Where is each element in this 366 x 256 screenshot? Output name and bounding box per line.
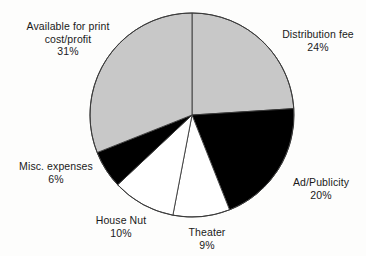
slice-label-distribution-line1: Distribution fee [272, 28, 364, 41]
slice-value-distribution: 24% [272, 41, 364, 54]
slice-label-adpublicity: Ad/Publicity 20% [278, 176, 364, 201]
slice-value-adpublicity: 20% [278, 189, 364, 202]
slice-value-misc: 6% [4, 173, 108, 186]
pie-chart: Available for print cost/profit 31% Dist… [0, 0, 366, 256]
slice-value-theater: 9% [176, 239, 238, 252]
slice-label-distribution: Distribution fee 24% [272, 28, 364, 53]
slice-label-available: Available for print cost/profit 31% [6, 20, 130, 58]
slice-label-available-line1: Available for print [6, 20, 130, 33]
slice-label-misc-line1: Misc. expenses [4, 160, 108, 173]
slice-label-theater-line1: Theater [176, 226, 238, 239]
slice-label-misc: Misc. expenses 6% [4, 160, 108, 185]
slice-label-theater: Theater 9% [176, 226, 238, 251]
slice-label-available-line2: cost/profit [6, 33, 130, 46]
slice-value-housenut: 10% [82, 227, 160, 240]
slice-label-adpublicity-line1: Ad/Publicity [278, 176, 364, 189]
slice-label-housenut: House Nut 10% [82, 214, 160, 239]
slice-value-available: 31% [6, 45, 130, 58]
slice-label-housenut-line1: House Nut [82, 214, 160, 227]
